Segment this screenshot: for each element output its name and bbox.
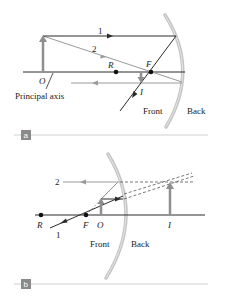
object-label: O [39, 76, 46, 86]
figure-b: 2 1 R F O I Front Back b [14, 154, 208, 289]
center-point-b [39, 213, 44, 218]
object-label-b: O [97, 220, 104, 230]
figure-a: 1 2 O R F I Principal axis Front Back a [14, 15, 208, 140]
ray-1-label: 1 [98, 26, 103, 36]
arrow-icon [92, 81, 98, 86]
arrow-icon [132, 91, 138, 98]
arrow-icon [80, 180, 86, 185]
front-label-b: Front [90, 239, 110, 249]
back-label: Back [187, 106, 206, 116]
ray-2-incident [43, 36, 182, 82]
center-point [114, 70, 119, 75]
image-label: I [139, 87, 144, 97]
ray-2-label: 2 [92, 44, 97, 54]
back-label-b: Back [131, 239, 150, 249]
badge-a-label: a [24, 131, 29, 140]
axis-leader-line [46, 73, 53, 89]
ray-2-incident-b [101, 182, 118, 199]
focal-label: F [145, 59, 152, 69]
center-label: R [107, 60, 114, 70]
arrow-icon [107, 34, 113, 39]
focal-point-b [84, 213, 89, 218]
ray-diagrams: 1 2 O R F I Principal axis Front Back a [0, 0, 234, 301]
center-label-b: R [36, 220, 43, 230]
ray-1-extension [124, 176, 194, 199]
front-label: Front [143, 106, 163, 116]
image-label-b: I [167, 220, 172, 230]
ray-1-reflected [120, 36, 176, 111]
arrow-icon [60, 219, 68, 224]
principal-axis-label: Principal axis [15, 91, 65, 101]
focal-point [149, 70, 154, 75]
ray-1-extension-2 [124, 173, 192, 194]
ray-2-label-b: 2 [55, 177, 60, 187]
focal-label-b: F [82, 220, 89, 230]
badge-b-label: b [24, 280, 29, 289]
ray-1-label-b: 1 [56, 230, 61, 240]
